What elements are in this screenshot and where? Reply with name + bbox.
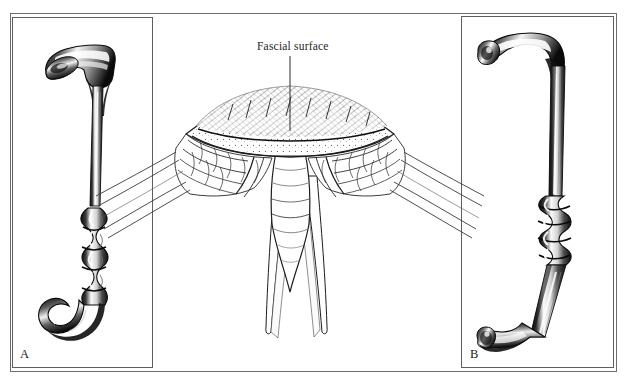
panel-a-frame <box>12 17 153 368</box>
panel-a-letter: A <box>20 347 29 362</box>
panel-b-letter: B <box>470 347 479 362</box>
figure-root: Fascial surface A B <box>0 0 630 387</box>
fascial-surface-label: Fascial surface <box>257 40 329 52</box>
panel-b-frame <box>461 16 614 368</box>
